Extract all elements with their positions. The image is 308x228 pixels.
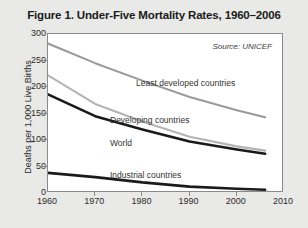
page-title: Figure 1. Under-Five Mortality Rates, 19… xyxy=(0,9,308,21)
source-annotation: Source: UNICEF xyxy=(212,42,272,51)
x-tick-label-2010: 2010 xyxy=(261,196,305,206)
series-label-industrial: Industrial countries xyxy=(110,170,181,180)
x-tick-label-1990: 1990 xyxy=(167,196,211,206)
series-label-least-developed: Least developed countries xyxy=(136,78,235,88)
series-label-world: World xyxy=(110,138,132,148)
y-axis-title: Deaths per 1,000 Live Births xyxy=(23,42,33,192)
figure-container: Figure 1. Under-Five Mortality Rates, 19… xyxy=(0,0,308,228)
x-tick-label-2000: 2000 xyxy=(214,196,258,206)
x-tick-label-1980: 1980 xyxy=(119,196,163,206)
plot-area: Source: UNICEF Least developed countries… xyxy=(47,33,283,192)
x-tick-label-1970: 1970 xyxy=(72,196,116,206)
y-tick-label-300: 300 xyxy=(16,28,46,38)
x-tick-label-1960: 1960 xyxy=(25,196,69,206)
series-label-developing: Developing countries xyxy=(110,115,189,125)
